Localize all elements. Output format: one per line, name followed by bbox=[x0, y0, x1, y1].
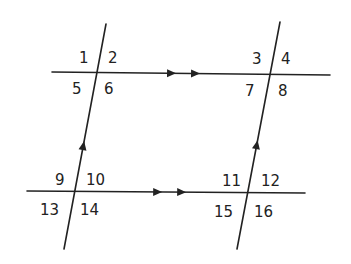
angle-label-2: 2 bbox=[108, 49, 118, 67]
angle-label-10: 10 bbox=[86, 171, 105, 189]
angle-label-3: 3 bbox=[252, 50, 262, 68]
angle-label-13: 13 bbox=[40, 201, 59, 219]
angle-label-15: 15 bbox=[214, 203, 233, 221]
top-horizontal-line bbox=[52, 72, 330, 75]
angle-label-11: 11 bbox=[222, 172, 241, 190]
parallel-lines-diagram: 12563478910131411121516 bbox=[0, 0, 351, 264]
angle-label-8: 8 bbox=[278, 82, 288, 100]
parallel-arrow-icon bbox=[167, 69, 176, 77]
parallel-arrow-icon bbox=[177, 188, 186, 196]
parallel-arrow-icon bbox=[191, 70, 200, 78]
angle-label-14: 14 bbox=[80, 201, 99, 219]
parallel-arrow-icon bbox=[79, 141, 87, 151]
bottom-horizontal-line bbox=[27, 191, 305, 193]
angle-label-9: 9 bbox=[55, 171, 65, 189]
parallel-arrow-icon bbox=[153, 188, 162, 196]
angle-label-1: 1 bbox=[79, 49, 89, 67]
angle-label-6: 6 bbox=[104, 80, 114, 98]
angle-label-16: 16 bbox=[254, 203, 273, 221]
angle-label-12: 12 bbox=[261, 172, 280, 190]
angle-label-5: 5 bbox=[72, 80, 82, 98]
angle-label-4: 4 bbox=[281, 50, 291, 68]
parallel-arrow-icon bbox=[252, 140, 260, 150]
angle-label-7: 7 bbox=[245, 82, 255, 100]
